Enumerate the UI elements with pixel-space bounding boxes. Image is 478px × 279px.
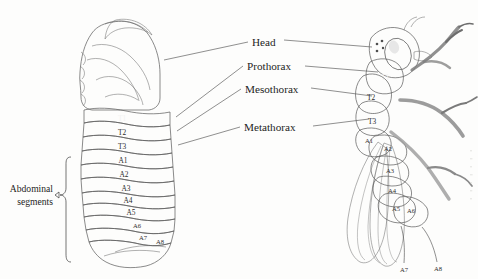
larva-label-A2: A2: [119, 170, 128, 179]
adult-abdomen: A1 A2 A3 A4 A5 A6 A7 A8: [356, 128, 443, 273]
larva-label-T1: T1: [118, 114, 127, 123]
callout-label-prothorax: Prothorax: [247, 60, 292, 72]
abdominal-brace-group: Abdominal segments: [10, 157, 71, 262]
larva-group: T1 T2 T3 A1 A2 A3 A4: [80, 19, 175, 267]
brace-label-line2: segments: [17, 196, 53, 207]
callout-label-metathorax: Metathorax: [244, 121, 296, 133]
scan-artifacts: [470, 150, 473, 199]
adult-legs: [391, 24, 477, 199]
larva-label-A5: A5: [126, 208, 135, 217]
larva-label-A8: A8: [156, 238, 165, 245]
figure-canvas: T1 T2 T3 A1 A2 A3 A4: [0, 0, 478, 279]
adult-head: [369, 17, 432, 78]
larva-label-A6: A6: [133, 222, 142, 229]
larva-label-A3: A3: [121, 184, 130, 193]
adult-label-A3: A3: [386, 167, 395, 174]
larva-label-T2: T2: [118, 128, 127, 137]
adult-label-A8: A8: [434, 265, 443, 272]
adult-eye: [381, 35, 416, 73]
adult-label-T3: T3: [368, 117, 377, 126]
adult-segment-T3: T3: [356, 101, 389, 136]
larva-label-A4: A4: [123, 196, 132, 205]
adult-label-A6: A6: [407, 207, 416, 214]
larva-label-A1: A1: [118, 156, 127, 165]
callout-labels: Head Prothorax Mesothorax Metathorax: [244, 36, 299, 133]
segmentation-figure: T1 T2 T3 A1 A2 A3 A4: [0, 0, 478, 279]
callout-label-head: Head: [252, 36, 276, 48]
larva-label-A7: A7: [139, 234, 148, 241]
brace-label-line1: Abdominal: [10, 183, 54, 194]
adult-segment-T1: T1: [366, 59, 403, 94]
adult-label-A7: A7: [400, 266, 409, 273]
adult-label-T1: T1: [381, 73, 390, 82]
adult-fly-group: T1 T2 T3 A1 A2 A3 A4: [347, 17, 477, 273]
adult-label-A2: A2: [384, 145, 392, 152]
larva-abdomen: A1 A2 A3 A4 A5 A6 A7 A8: [81, 149, 175, 267]
callout-label-mesothorax: Mesothorax: [245, 83, 299, 95]
larva-head: [80, 19, 160, 110]
larva-label-T3: T3: [118, 142, 127, 151]
